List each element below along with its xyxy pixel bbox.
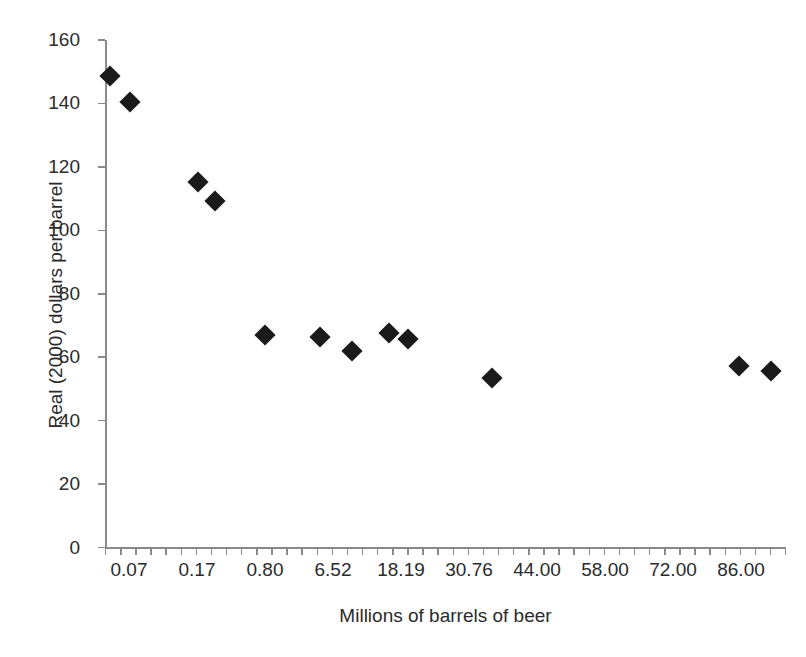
data-point [397,328,418,349]
x-axis-tick [694,548,695,555]
data-point [481,367,502,388]
data-point [341,340,362,361]
y-axis-tick [98,103,105,105]
y-axis-tick-label: 0 [69,538,80,557]
x-axis-tick-label: 58.00 [581,560,629,579]
y-axis-tick [98,356,105,358]
x-axis-tick [664,548,665,555]
x-axis-tick [256,548,257,555]
x-axis-tick [483,548,484,555]
data-point [119,91,140,112]
x-axis-tick [619,548,620,555]
x-axis-tick [105,548,106,555]
data-point [254,324,275,345]
x-axis-tick-label: 6.52 [315,560,352,579]
x-axis-tick [437,548,438,555]
x-axis-tick [135,548,136,555]
x-axis-tick-label: 44.00 [513,560,561,579]
x-axis-tick [377,548,378,555]
x-axis-tick [196,548,197,555]
x-axis-tick [725,548,726,555]
x-axis-tick [453,548,454,555]
x-axis-tick [181,548,182,555]
x-axis-tick [226,548,227,555]
y-axis-tick [98,420,105,422]
data-point [378,322,399,343]
y-axis-line [105,40,107,549]
x-axis-tick [589,548,590,555]
scatter-chart: 020406080100120140160 0.070.170.806.5218… [0,0,806,657]
x-axis-line [105,547,786,549]
x-axis-tick [755,548,756,555]
x-axis-tick [785,548,786,555]
y-axis-tick [98,293,105,295]
x-axis-tick [604,548,605,555]
data-point [204,190,225,211]
x-axis-tick [347,548,348,555]
y-axis-tick [98,483,105,485]
x-axis-tick [740,548,741,555]
x-axis-tick-label: 86.00 [717,560,765,579]
x-axis-tick [543,548,544,555]
x-axis-tick [301,548,302,555]
x-axis-tick [573,548,574,555]
x-axis-tick [286,548,287,555]
x-axis-tick [271,548,272,555]
x-axis-tick [709,548,710,555]
x-axis-tick-label: 72.00 [649,560,697,579]
x-axis-tick [317,548,318,555]
x-axis-tick [407,548,408,555]
y-axis-tick [98,166,105,168]
x-axis-tick [679,548,680,555]
data-point [99,65,120,86]
y-axis-title-wrap: Real (2000) dollars per barrel [26,0,50,657]
x-axis-tick-label: 0.07 [111,560,148,579]
x-axis-tick [241,548,242,555]
x-axis-tick [634,548,635,555]
y-axis-title: Real (2000) dollars per barrel [45,75,67,535]
x-axis-tick [558,548,559,555]
x-axis-tick [362,548,363,555]
data-point [309,326,330,347]
x-axis-tick [211,548,212,555]
x-axis-tick-label: 30.76 [445,560,493,579]
data-point [187,171,208,192]
data-point [760,360,781,381]
data-point [728,355,749,376]
x-axis-tick [513,548,514,555]
x-axis-tick-label: 0.17 [179,560,216,579]
x-axis-tick [150,548,151,555]
x-axis-tick [649,548,650,555]
x-axis-tick [392,548,393,555]
x-axis-tick [422,548,423,555]
x-axis-tick-label: 18.19 [377,560,425,579]
x-axis-tick [468,548,469,555]
y-axis-tick [98,547,105,549]
x-axis-tick [120,548,121,555]
x-axis-tick [332,548,333,555]
x-axis-tick [498,548,499,555]
x-axis-tick [165,548,166,555]
y-axis-tick [98,39,105,41]
x-axis-title: Millions of barrels of beer [105,605,786,627]
x-axis-tick [770,548,771,555]
x-axis-tick [528,548,529,555]
y-axis-tick-label: 160 [48,30,80,49]
y-axis-tick [98,230,105,232]
x-axis-tick-label: 0.80 [247,560,284,579]
